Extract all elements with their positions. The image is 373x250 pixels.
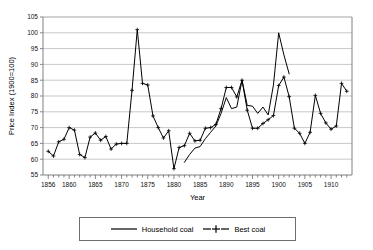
y-tick-label: 55 bbox=[31, 171, 39, 178]
x-tick-label: 1865 bbox=[88, 181, 103, 188]
x-tick-label: 1900 bbox=[271, 181, 286, 188]
y-axis-title: Price Index (1900=100) bbox=[7, 56, 16, 135]
y-tick-label: 80 bbox=[31, 92, 39, 99]
y-tick-label: 90 bbox=[31, 61, 39, 68]
y-tick-label: 65 bbox=[31, 140, 39, 147]
x-tick-label: 1860 bbox=[62, 181, 77, 188]
x-tick-label: 1890 bbox=[219, 181, 234, 188]
x-tick-label: 1895 bbox=[245, 181, 260, 188]
legend-swatch-plus-marker-line bbox=[202, 224, 230, 234]
y-tick-label: 105 bbox=[27, 13, 38, 20]
legend-label-household-coal: Household coal bbox=[142, 225, 194, 234]
price-index-line-chart: 5560657075808590951001051856186018651870… bbox=[0, 0, 373, 250]
chart-figure: 5560657075808590951001051856186018651870… bbox=[0, 0, 373, 250]
x-tick-label: 1870 bbox=[114, 181, 129, 188]
y-tick-label: 70 bbox=[31, 124, 39, 131]
y-tick-label: 95 bbox=[31, 45, 39, 52]
legend-item-household-coal: Household coal bbox=[110, 224, 194, 234]
x-tick-label: 1856 bbox=[41, 181, 56, 188]
chart-legend: Household coal Best coal bbox=[79, 217, 296, 241]
y-tick-label: 85 bbox=[31, 77, 39, 84]
legend-label-best-coal: Best coal bbox=[234, 225, 265, 234]
y-tick-label: 100 bbox=[27, 29, 38, 36]
x-tick-label: 1875 bbox=[141, 181, 156, 188]
x-tick-label: 1910 bbox=[324, 181, 339, 188]
x-tick-label: 1880 bbox=[167, 181, 182, 188]
x-tick-label: 1905 bbox=[298, 181, 313, 188]
legend-swatch-plain-line bbox=[110, 224, 138, 234]
y-tick-label: 75 bbox=[31, 108, 39, 115]
legend-item-best-coal: Best coal bbox=[202, 224, 265, 234]
x-axis-title: Year bbox=[190, 193, 206, 202]
y-tick-label: 60 bbox=[31, 156, 39, 163]
x-tick-label: 1885 bbox=[193, 181, 208, 188]
